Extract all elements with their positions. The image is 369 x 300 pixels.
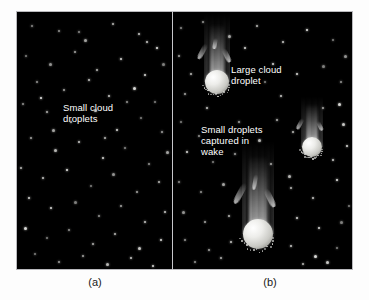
cloud-dot bbox=[88, 79, 90, 81]
cloud-dot bbox=[194, 261, 197, 264]
cloud-dot bbox=[184, 239, 186, 241]
cloud-dot bbox=[52, 129, 55, 132]
cloud-dot bbox=[160, 239, 162, 241]
cloud-dot bbox=[124, 147, 126, 149]
captured-small-droplet bbox=[272, 243, 274, 245]
cloud-dot bbox=[186, 151, 188, 153]
cloud-dot bbox=[78, 31, 80, 33]
cloud-dot bbox=[50, 207, 52, 209]
cloud-dot bbox=[154, 101, 156, 103]
cloud-dot bbox=[133, 87, 136, 90]
captured-small-droplet bbox=[304, 153, 306, 155]
captured-small-droplet bbox=[320, 155, 322, 157]
large-droplet-top bbox=[204, 14, 230, 94]
cloud-dot bbox=[178, 181, 180, 183]
captured-small-droplet bbox=[253, 249, 255, 251]
cloud-dot bbox=[282, 41, 285, 44]
captured-small-droplet bbox=[312, 158, 314, 160]
cloud-dot bbox=[49, 63, 52, 66]
cloud-dot bbox=[92, 243, 94, 245]
cloud-dot bbox=[46, 237, 48, 239]
cloud-dot bbox=[158, 181, 161, 184]
cloud-dot bbox=[336, 179, 338, 181]
cloud-dot bbox=[306, 29, 308, 31]
cloud-dot bbox=[106, 263, 109, 266]
captured-small-droplet bbox=[208, 93, 210, 95]
cloud-dot bbox=[146, 41, 149, 44]
cloud-dot bbox=[238, 121, 240, 123]
cloud-dot bbox=[292, 131, 294, 133]
captured-small-droplet bbox=[310, 156, 312, 158]
cloud-dot bbox=[126, 101, 128, 103]
cloud-dot bbox=[24, 227, 27, 230]
cloud-dot bbox=[78, 141, 80, 143]
cloud-dot bbox=[180, 121, 182, 123]
cloud-dot bbox=[156, 47, 158, 49]
large-droplet-right bbox=[301, 97, 323, 157]
cloud-dot bbox=[54, 149, 57, 152]
captured-small-droplet bbox=[222, 93, 224, 95]
cloud-dot bbox=[318, 227, 320, 229]
cloud-dot bbox=[112, 23, 114, 25]
cloud-dot bbox=[58, 30, 60, 32]
captured-small-droplet bbox=[304, 156, 306, 158]
captured-small-droplet bbox=[317, 155, 319, 157]
captured-small-droplet bbox=[228, 89, 230, 91]
captured-small-droplet bbox=[264, 248, 266, 250]
cloud-dot bbox=[208, 249, 211, 252]
captured-small-droplet bbox=[259, 252, 261, 254]
cloud-dot bbox=[344, 55, 347, 58]
cloud-dot bbox=[84, 39, 87, 42]
cloud-dot bbox=[244, 47, 246, 49]
captured-small-droplet bbox=[223, 91, 225, 93]
cloud-dot bbox=[138, 33, 141, 36]
captured-small-droplet bbox=[250, 249, 252, 251]
cloud-dot bbox=[74, 51, 76, 53]
cloud-dot bbox=[184, 93, 187, 96]
cloud-dot bbox=[332, 159, 334, 161]
cloud-dot bbox=[326, 261, 329, 264]
captured-small-droplet bbox=[220, 95, 222, 97]
cloud-dot bbox=[58, 261, 60, 263]
cloud-dot bbox=[164, 211, 166, 213]
cloud-dot bbox=[74, 201, 77, 204]
cloud-dot bbox=[178, 55, 180, 57]
caption-a: (a) bbox=[60, 276, 130, 288]
cloud-dot bbox=[198, 135, 201, 138]
captured-small-droplet bbox=[306, 157, 308, 159]
captured-small-droplet bbox=[228, 84, 230, 86]
captured-small-droplet bbox=[247, 248, 249, 250]
cloud-dot bbox=[180, 27, 182, 29]
captured-small-droplet bbox=[314, 157, 316, 159]
cloud-dot bbox=[276, 119, 278, 121]
cloud-dot bbox=[104, 137, 106, 139]
cloud-dot bbox=[340, 221, 343, 224]
cloud-dot bbox=[302, 263, 304, 265]
captured-small-droplet bbox=[262, 250, 264, 252]
captured-small-droplet bbox=[316, 156, 318, 158]
cloud-dot bbox=[40, 97, 42, 99]
cloud-dot bbox=[112, 173, 115, 176]
cloud-dot bbox=[96, 69, 99, 72]
cloud-dot bbox=[200, 191, 202, 193]
cloud-dot bbox=[296, 73, 298, 75]
cloud-dot bbox=[98, 215, 100, 217]
captured-small-droplet bbox=[270, 246, 272, 248]
large-droplet-bottom bbox=[242, 141, 274, 249]
cloud-dot bbox=[31, 25, 33, 27]
cloud-dot bbox=[230, 241, 232, 243]
cloud-dot bbox=[228, 215, 231, 218]
cloud-dot bbox=[116, 129, 118, 131]
captured-small-droplet bbox=[272, 240, 274, 242]
cloud-dot bbox=[346, 145, 349, 148]
cloud-dot bbox=[120, 58, 122, 60]
captured-small-droplet bbox=[266, 246, 268, 248]
panel-b: Large cloud dropletSmall droplets captur… bbox=[173, 11, 353, 270]
cloud-dot bbox=[34, 253, 37, 256]
panel-a: Small cloud droplets bbox=[16, 11, 173, 270]
cloud-dot bbox=[144, 221, 146, 223]
cloud-dot bbox=[82, 255, 84, 257]
cloud-dot bbox=[204, 221, 206, 223]
cloud-dot bbox=[46, 111, 48, 113]
cloud-dot bbox=[290, 187, 292, 189]
